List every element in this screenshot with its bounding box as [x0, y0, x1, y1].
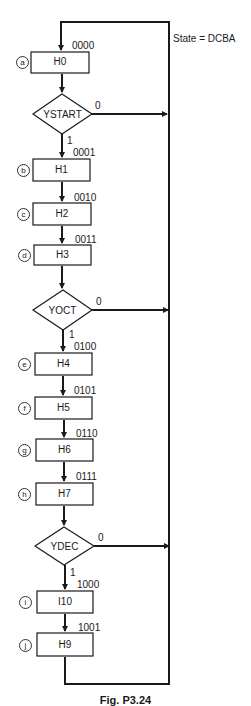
state-box-h9: H9 — [37, 640, 93, 650]
state-marker-a: a — [16, 56, 29, 69]
state-marker-i: i — [19, 596, 32, 609]
state-marker-j: j — [19, 639, 32, 652]
ydec-false-label: 0 — [98, 533, 104, 543]
state-code-h: 0111 — [76, 472, 97, 482]
state-code-d: 0011 — [75, 235, 97, 245]
state-marker-d: d — [18, 249, 31, 262]
state-code-e: 0100 — [74, 342, 96, 352]
state-marker-b: b — [17, 164, 30, 177]
state-box-h3: H3 — [34, 250, 91, 260]
state-box-h2: H2 — [33, 209, 91, 219]
state-code-j: 1001 — [78, 623, 100, 633]
state-box-h0: H0 — [31, 57, 89, 67]
ystart-true-label: 1 — [67, 136, 73, 146]
state-box-h1: H1 — [33, 165, 90, 175]
state-box-h4: H4 — [35, 359, 92, 369]
state-marker-f: f — [18, 402, 31, 415]
figure-caption: Fig. P3.24 — [0, 694, 251, 706]
state-box-h7: H7 — [36, 489, 93, 499]
decision-ydec: YDEC — [35, 542, 94, 552]
yoct-true-label: 1 — [69, 330, 75, 340]
state-box-i10: I10 — [37, 597, 93, 607]
state-marker-g: g — [18, 444, 31, 457]
state-box-h6: H6 — [36, 445, 93, 455]
state-box-h5: H5 — [35, 403, 92, 413]
state-code-a: 0000 — [72, 41, 94, 51]
state-marker-h: h — [18, 488, 31, 501]
state-legend: State = DCBA — [173, 34, 236, 44]
decision-ystart: YSTART — [33, 110, 92, 120]
state-marker-c: c — [17, 208, 30, 221]
decision-yoct: YOCT — [33, 306, 92, 316]
state-code-c: 0010 — [74, 193, 96, 203]
state-code-b: 0001 — [73, 148, 95, 158]
state-code-f: 0101 — [74, 386, 96, 396]
yoct-false-label: 0 — [96, 297, 102, 307]
state-code-i: 1000 — [77, 580, 99, 590]
state-code-g: 0110 — [76, 429, 98, 439]
ydec-true-label: 1 — [70, 568, 76, 578]
state-marker-e: e — [18, 358, 31, 371]
ystart-false-label: 0 — [95, 101, 101, 111]
